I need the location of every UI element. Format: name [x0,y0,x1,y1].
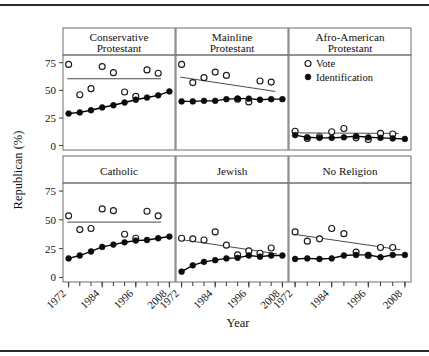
data-point-identification [235,96,241,102]
panel-frame-conservative-protestant [63,55,175,150]
data-point-identification [402,252,408,258]
data-point-identification [212,257,218,263]
series-line-identification [182,99,283,102]
data-point-identification [268,253,274,259]
data-point-identification [257,97,263,103]
data-point-vote [88,225,94,231]
data-point-vote [77,92,83,98]
data-point-identification [304,134,310,140]
series-line-identification [295,135,405,139]
strip-label: Protestant [328,42,374,54]
y-tick-label: 0 [51,271,57,283]
data-point-identification [144,237,150,243]
data-point-identification [353,133,359,139]
data-point-identification [99,244,105,250]
legend-marker-identification [305,74,311,80]
data-point-vote [190,236,196,242]
data-point-identification [201,259,207,265]
data-point-vote [66,213,72,219]
data-point-vote [110,208,116,214]
panel-data-no-religion [292,225,408,261]
data-point-identification [77,110,83,116]
data-point-identification [246,96,252,102]
data-point-identification [201,98,207,104]
data-point-identification [66,256,72,262]
data-point-vote [329,129,335,135]
x-tick-label: 1996 [344,287,368,311]
y-tick-label: 75 [45,57,57,69]
data-point-vote [223,72,229,78]
y-tick-label: 0 [51,140,57,152]
x-axis-title: Year [226,316,250,330]
data-point-identification [111,242,117,248]
data-point-identification [179,98,185,104]
data-point-identification [292,132,298,138]
data-point-identification [190,98,196,104]
strip-label: Catholic [100,165,138,177]
data-point-vote [201,75,207,81]
trellis-plot: ConservativeProtestantMainlineProtestant… [0,0,429,356]
series-line-identification [295,255,405,259]
data-point-identification [133,238,139,244]
strip-label: Protestant [210,42,256,54]
data-point-identification [246,253,252,259]
data-point-identification [99,105,105,111]
legend-label: Identification [316,72,374,83]
strip-label: No Religion [322,165,377,177]
data-point-vote [122,89,128,95]
data-point-vote [304,238,310,244]
data-point-vote [179,235,185,241]
bottom-rule [0,350,429,352]
y-tick-label: 50 [45,84,57,96]
data-point-identification [224,96,230,102]
x-tick-label: 1984 [78,287,102,311]
data-point-identification [122,239,128,245]
data-point-identification [66,111,72,117]
data-point-identification [280,96,286,102]
data-point-identification [280,253,286,259]
data-point-vote [268,245,274,251]
series-line-identification [69,91,170,113]
legend-label: Vote [316,58,336,69]
data-point-vote [329,225,335,231]
data-point-identification [155,235,161,241]
data-point-identification [317,256,323,262]
x-tick-label: 1984 [307,287,331,311]
data-point-identification [167,234,173,240]
data-point-vote [144,67,150,73]
panel-data-conservative-protestant [66,61,173,116]
y-tick-label: 25 [45,112,57,124]
data-point-vote [341,125,347,131]
data-point-vote [212,69,218,75]
data-point-vote [212,229,218,235]
data-point-vote [144,208,150,214]
strip-label: Protestant [97,42,143,54]
data-point-vote [88,86,94,92]
data-point-vote [155,70,161,76]
data-point-vote [122,231,128,237]
data-point-identification [353,252,359,258]
data-point-identification [257,254,263,260]
data-point-vote [317,236,323,242]
series-line-identification [69,237,170,259]
data-point-vote [268,79,274,85]
data-point-identification [292,256,298,262]
panel-data-afro-american-protestant [292,125,408,142]
data-point-identification [304,256,310,262]
data-point-vote [257,78,263,84]
data-point-vote [99,206,105,212]
panel-data-jewish [179,229,286,275]
data-point-identification [77,253,83,259]
data-point-vote [292,229,298,235]
data-point-vote [99,64,105,70]
data-point-vote [179,61,185,67]
y-tick-label: 25 [45,243,57,255]
data-point-identification [212,98,218,104]
data-point-vote [390,244,396,250]
y-tick-label: 75 [45,185,57,197]
x-tick-label: 2008 [380,287,404,311]
strip-label: Mainline [212,31,252,43]
data-point-identification [378,254,384,260]
data-point-vote [201,237,207,243]
data-point-identification [144,95,150,101]
